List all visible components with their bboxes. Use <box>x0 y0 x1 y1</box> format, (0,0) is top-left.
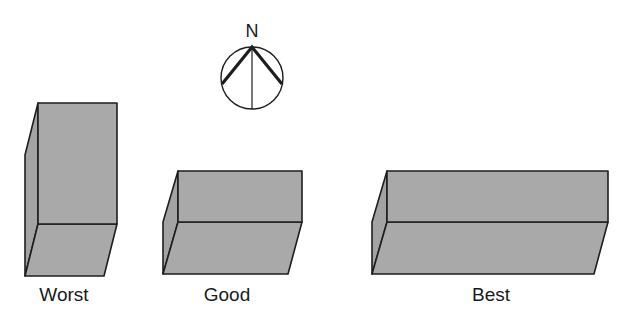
box-top-face <box>25 224 117 276</box>
box-label-best: Best <box>472 284 511 305</box>
box-label-good: Good <box>204 284 250 305</box>
box-worst: Worst <box>25 103 117 305</box>
box-good: Good <box>163 171 302 305</box>
box-best: Best <box>372 171 608 305</box>
north-arrow-icon <box>221 47 283 109</box>
box-front-face <box>178 171 302 222</box>
compass: N <box>221 21 283 109</box>
box-top-face <box>372 222 608 274</box>
box-front-face <box>38 103 117 224</box>
diagram-canvas: WorstGoodBest N <box>0 0 623 320</box>
box-front-face <box>387 171 608 222</box>
compass-north-label: N <box>246 21 259 41</box>
building-orientation-diagram: WorstGoodBest N N Worst Good Best <box>0 0 623 320</box>
box-top-face <box>163 222 302 274</box>
box-label-worst: Worst <box>39 284 89 305</box>
building-boxes: WorstGoodBest <box>25 103 608 305</box>
